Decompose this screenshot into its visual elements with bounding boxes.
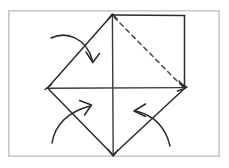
diagram-canvas <box>0 0 229 168</box>
diagram-border <box>9 11 219 156</box>
vertical-crease-line <box>112 15 113 155</box>
horizontal-crease-line <box>48 88 186 89</box>
square-top-edge <box>112 15 185 16</box>
origami-fold-diagram <box>0 0 229 168</box>
